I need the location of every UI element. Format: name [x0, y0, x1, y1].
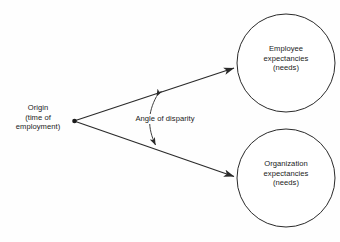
organization-label-line-3: (needs) [237, 178, 335, 188]
organization-label-line-2: expectancies [237, 169, 335, 179]
origin-label-line-2: (time of [2, 113, 74, 123]
angle-of-disparity-label: Angle of disparity [117, 114, 213, 124]
employee-label-line-2: expectancies [237, 54, 335, 64]
origin-label-line-1: Origin [2, 103, 74, 113]
arrow-origin-to-organization [76, 122, 235, 177]
origin-label-line-3: employment) [2, 122, 74, 132]
organization-expectancies-label: Organization expectancies (needs) [237, 159, 335, 188]
employee-expectancies-label: Employee expectancies (needs) [237, 44, 335, 73]
employee-label-line-1: Employee [237, 44, 335, 54]
employee-label-line-3: (needs) [237, 63, 335, 73]
arrow-origin-to-employee [76, 68, 235, 121]
diagram-canvas: Origin (time of employment) Employee exp… [0, 0, 340, 242]
origin-label: Origin (time of employment) [2, 103, 74, 132]
organization-label-line-1: Organization [237, 159, 335, 169]
